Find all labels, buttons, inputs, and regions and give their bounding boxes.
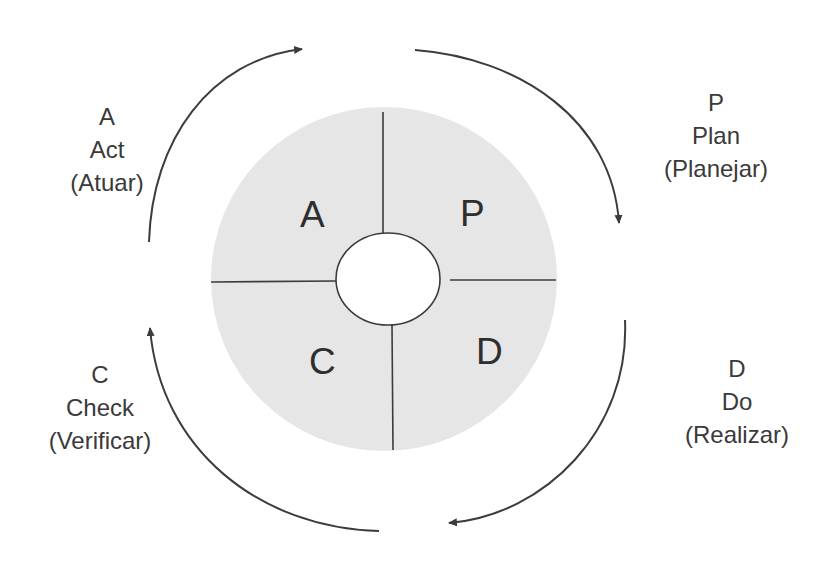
stage-letter: P [656, 86, 776, 119]
stage-letter: D [672, 352, 802, 385]
stage-label-plan: P Plan (Planejar) [656, 86, 776, 185]
quadrant-letter-c: C [309, 341, 336, 382]
stage-label-do: D Do (Realizar) [672, 352, 802, 451]
quadrant-letter-p: P [460, 193, 485, 234]
stage-label-check: C Check (Verificar) [35, 358, 165, 457]
pdca-cycle-diagram: A P D C [0, 0, 832, 565]
stage-name-portuguese: (Planejar) [656, 152, 776, 185]
stage-name-portuguese: (Atuar) [57, 166, 157, 199]
stage-name-english: Act [57, 133, 157, 166]
stage-letter: A [57, 100, 157, 133]
quadrant-letter-d: D [476, 331, 503, 372]
hub-circle [336, 233, 440, 325]
stage-label-act: A Act (Atuar) [57, 100, 157, 199]
stage-name-english: Plan [656, 119, 776, 152]
stage-name-portuguese: (Verificar) [35, 424, 165, 457]
stage-name-english: Check [35, 391, 165, 424]
stage-name-english: Do [672, 385, 802, 418]
stage-letter: C [35, 358, 165, 391]
stage-name-portuguese: (Realizar) [672, 418, 802, 451]
divider-bottom [392, 325, 393, 450]
quadrant-letter-a: A [300, 194, 325, 235]
divider-left [211, 281, 336, 282]
